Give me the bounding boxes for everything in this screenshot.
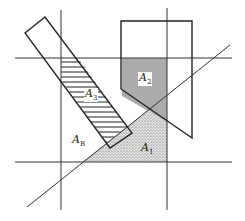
diagram-canvas xyxy=(0,0,245,221)
label-a1: A1 xyxy=(141,142,153,156)
label-a2: A2 xyxy=(138,72,152,86)
label-a3: A3 xyxy=(84,88,98,102)
label-ab: AB xyxy=(72,134,85,148)
diagram: A3 A2 AB A1 xyxy=(0,0,245,221)
region-a2 xyxy=(122,58,167,122)
